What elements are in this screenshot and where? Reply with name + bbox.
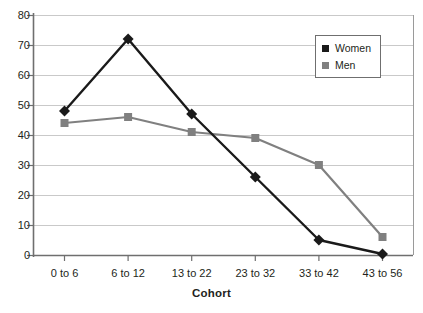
x-tick-label: 33 to 42 <box>299 268 339 279</box>
legend-label-men: Men <box>335 60 355 71</box>
x-tick-label: 13 to 22 <box>172 268 212 279</box>
legend-item-men: Men <box>322 57 380 74</box>
legend-swatch-women-icon <box>322 45 329 52</box>
x-tick-label: 23 to 32 <box>235 268 275 279</box>
legend-swatch-men-icon <box>322 62 329 69</box>
x-axis-title: Cohort <box>0 287 423 299</box>
legend-label-women: Women <box>335 43 371 54</box>
line-chart: 80 70 60 50 40 30 20 10 0 0 to 6 6 to 12… <box>0 0 423 313</box>
x-tick-label: 43 to 56 <box>363 268 403 279</box>
x-tick-label: 0 to 6 <box>51 268 79 279</box>
chart-legend: Women Men <box>315 35 381 78</box>
x-tick-label: 6 to 12 <box>111 268 145 279</box>
legend-item-women: Women <box>322 40 380 57</box>
